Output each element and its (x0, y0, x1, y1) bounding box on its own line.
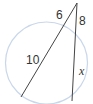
label-external-segment-2: 8 (79, 14, 86, 28)
secant-line-1 (21, 3, 77, 97)
label-internal-segment-1: 10 (26, 53, 40, 67)
secant-line-2 (72, 3, 77, 101)
label-internal-segment-2-x: x (78, 64, 85, 78)
label-external-segment-1: 6 (56, 8, 63, 22)
secant-diagram: 6 10 8 x (0, 0, 93, 104)
